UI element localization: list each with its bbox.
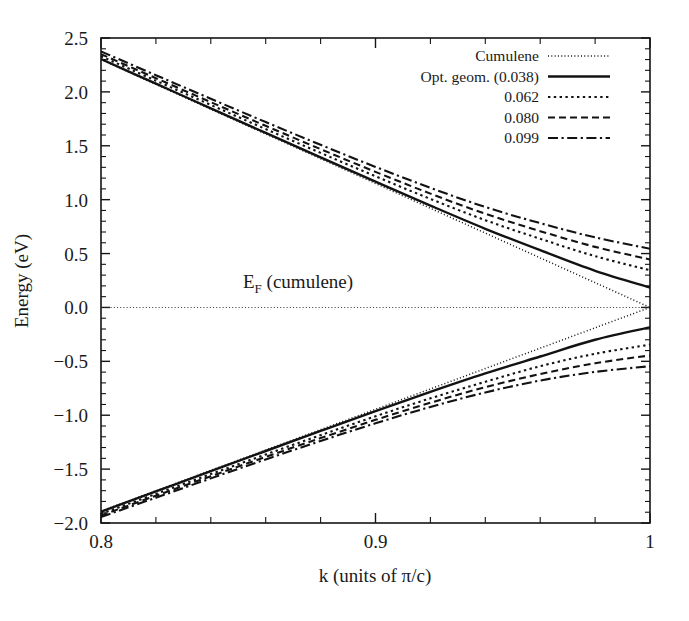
y-tick-label: 0.5 — [64, 244, 88, 265]
fermi-symbol: E — [243, 271, 255, 292]
y-tick-label: −1.0 — [54, 405, 88, 426]
x-tick-label: 0.9 — [364, 531, 388, 552]
x-tick-label: 0.8 — [89, 531, 113, 552]
x-axis-title: k (units of π/c) — [319, 565, 432, 587]
y-tick-label: −0.5 — [54, 351, 88, 372]
figure-background — [0, 0, 689, 621]
legend-label-1: Opt. geom. (0.038) — [421, 68, 539, 86]
y-tick-label: −1.5 — [54, 459, 88, 480]
legend-label-2: 0.062 — [504, 88, 539, 105]
plot-canvas: −2.0−1.5−1.0−0.50.00.51.01.52.02.5 0.80.… — [0, 0, 689, 621]
y-axis-title: Energy (eV) — [11, 234, 33, 328]
legend-label-3: 0.080 — [504, 109, 539, 126]
y-tick-label: −2.0 — [54, 513, 88, 534]
y-tick-label: 0.0 — [64, 297, 88, 318]
x-tick-label: 1 — [645, 531, 655, 552]
band-structure-figure: −2.0−1.5−1.0−0.50.00.51.01.52.02.5 0.80.… — [0, 0, 689, 621]
legend-label-0: Cumulene — [475, 47, 539, 64]
legend-label-4: 0.099 — [504, 129, 539, 146]
fermi-suffix: (cumulene) — [262, 271, 353, 293]
y-tick-label: 2.0 — [64, 82, 88, 103]
fermi-subscript: F — [255, 281, 262, 296]
y-tick-label: 1.5 — [64, 136, 88, 157]
y-tick-label: 2.5 — [64, 28, 88, 49]
y-tick-label: 1.0 — [64, 190, 88, 211]
